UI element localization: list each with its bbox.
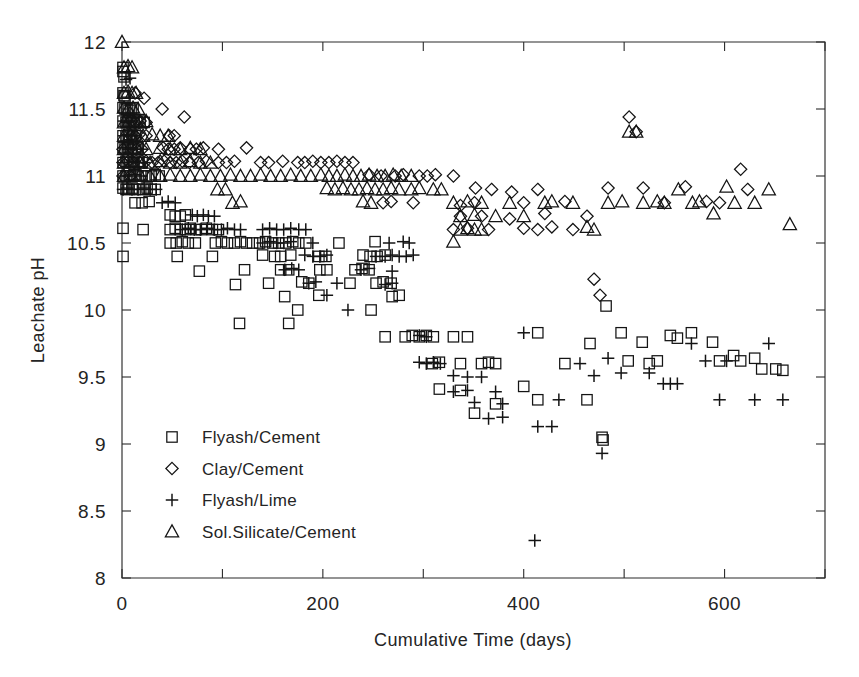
- legend-item-triangle[interactable]: Sol.Silicate/Cement: [165, 523, 356, 542]
- data-point-square: [601, 301, 611, 311]
- data-point-triangle: [503, 196, 516, 208]
- data-point-plus: [162, 195, 174, 207]
- data-point-square: [519, 381, 529, 391]
- y-tick-label: 10.5: [67, 233, 106, 254]
- y-tick-labels: 88.599.51010.51111.512: [67, 32, 106, 589]
- data-point-plus: [383, 237, 395, 249]
- data-point-plus: [321, 289, 333, 301]
- y-tick-label: 11: [85, 166, 106, 187]
- data-point-plus: [517, 327, 529, 339]
- data-point-square: [637, 337, 647, 347]
- y-tick-label: 11.5: [68, 99, 106, 120]
- data-point-square: [623, 356, 633, 366]
- data-point-triangle: [338, 168, 351, 180]
- data-point-diamond: [482, 223, 494, 235]
- data-point-square: [334, 238, 344, 248]
- data-point-square: [322, 265, 332, 275]
- data-point-plus: [748, 394, 760, 406]
- data-point-diamond: [469, 182, 481, 194]
- legend-label: Clay/Cement: [202, 460, 304, 479]
- data-point-triangle: [637, 196, 650, 208]
- data-point-triangle: [384, 181, 397, 193]
- data-point-plus: [699, 355, 711, 367]
- data-point-plus: [777, 394, 789, 406]
- data-point-square: [269, 251, 279, 261]
- data-point-triangle: [320, 181, 333, 193]
- data-point-diamond: [567, 223, 579, 235]
- data-point-square: [257, 250, 267, 260]
- legend-label: Sol.Silicate/Cement: [202, 523, 356, 542]
- data-point-plus: [386, 265, 398, 277]
- data-point-diamond: [347, 156, 359, 168]
- data-point-diamond: [742, 183, 754, 195]
- data-point-plus: [615, 367, 627, 379]
- y-tick-label: 9.5: [78, 367, 106, 388]
- legend-item-square[interactable]: Flyash/Cement: [167, 428, 320, 447]
- data-point-square: [366, 305, 376, 315]
- data-point-triangle: [720, 180, 733, 192]
- data-point-plus: [763, 337, 775, 349]
- y-tick-label: 8: [95, 568, 106, 589]
- x-tick-label: 600: [708, 593, 741, 614]
- data-point-square: [275, 251, 285, 261]
- data-point-square: [533, 328, 543, 338]
- x-tick-label: 200: [306, 593, 339, 614]
- legend-label: Flyash/Cement: [202, 428, 320, 447]
- data-point-plus: [489, 386, 501, 398]
- legend-item-plus[interactable]: Flyash/Lime: [166, 491, 297, 510]
- data-point-square: [686, 328, 696, 338]
- data-point-plus: [671, 377, 683, 389]
- data-point-square: [263, 278, 273, 288]
- leachate-ph-scatter-figure: 0200400600 88.599.51010.51111.512 Cumula…: [0, 0, 859, 677]
- data-point-triangle: [728, 196, 741, 208]
- data-point-plus: [156, 197, 168, 209]
- x-axis-title: Cumulative Time (days): [374, 630, 572, 650]
- data-point-plus: [553, 394, 565, 406]
- data-point-plus: [208, 210, 220, 222]
- data-point-square: [672, 333, 682, 343]
- data-point-square: [345, 278, 355, 288]
- data-point-plus: [602, 352, 614, 364]
- data-point-square: [234, 318, 244, 328]
- data-point-square: [370, 236, 380, 246]
- data-point-square: [434, 384, 444, 394]
- data-point-triangle: [336, 181, 349, 193]
- data-point-diamond: [532, 223, 544, 235]
- data-point-diamond: [506, 186, 518, 198]
- data-point-square: [560, 358, 570, 368]
- data-point-square: [165, 238, 175, 248]
- data-point-triangle: [356, 195, 369, 207]
- data-point-square: [585, 338, 595, 348]
- data-point-square: [582, 395, 592, 405]
- data-point-plus: [278, 264, 290, 276]
- data-point-plus: [482, 412, 494, 424]
- data-point-plus: [407, 249, 419, 261]
- data-point-triangle: [615, 195, 628, 207]
- y-tick-label: 9: [95, 434, 106, 455]
- data-point-diamond: [594, 289, 606, 301]
- data-point-triangle: [783, 218, 796, 230]
- data-point-triangle: [672, 183, 685, 195]
- data-point-triangle: [165, 525, 178, 537]
- data-point-plus: [532, 420, 544, 432]
- data-point-diamond: [407, 197, 419, 209]
- data-point-square: [616, 328, 626, 338]
- y-tick-label: 8.5: [78, 501, 106, 522]
- data-point-triangle: [748, 196, 761, 208]
- data-point-diamond: [156, 103, 168, 115]
- data-point-square: [172, 251, 182, 261]
- data-point-diamond: [166, 462, 178, 474]
- data-point-square: [707, 337, 717, 347]
- data-point-diamond: [277, 155, 289, 167]
- data-point-triangle: [517, 210, 530, 222]
- data-point-square: [239, 265, 249, 275]
- data-point-plus: [720, 355, 732, 367]
- legend-label: Flyash/Lime: [202, 491, 297, 510]
- data-point-plus: [685, 337, 697, 349]
- legend-item-diamond[interactable]: Clay/Cement: [166, 460, 304, 479]
- data-point-diamond: [292, 156, 304, 168]
- data-point-square: [462, 332, 472, 342]
- data-point-square: [194, 266, 204, 276]
- data-point-plus: [307, 237, 319, 249]
- y-tick-label: 10: [84, 300, 106, 321]
